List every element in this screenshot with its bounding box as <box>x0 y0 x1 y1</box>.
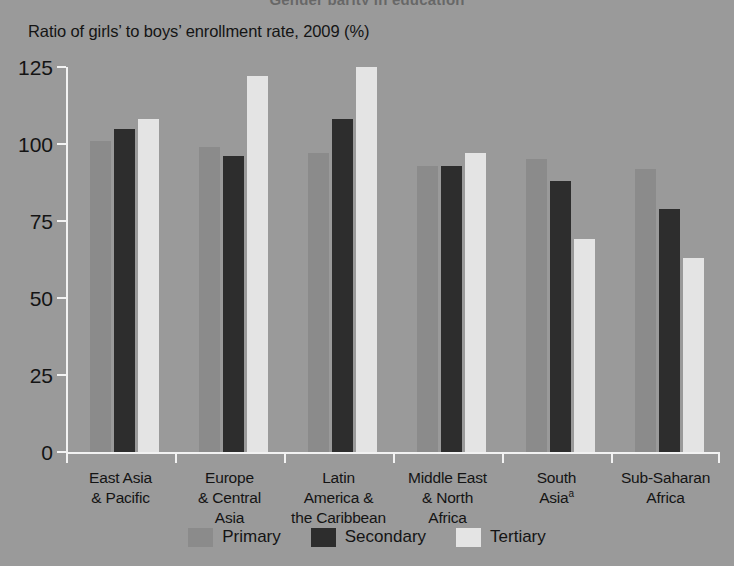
chart-legend: PrimarySecondaryTertiary <box>0 527 734 547</box>
bar-primary-4 <box>526 159 547 452</box>
bar-tertiary-0 <box>138 119 159 452</box>
category-label-line: Asiaa <box>502 488 611 508</box>
x-axis-separator <box>718 452 720 463</box>
category-label-0: East Asia& Pacific <box>66 468 175 508</box>
category-label-line: South <box>502 468 611 488</box>
category-label-1: Europe& CentralAsia <box>175 468 284 527</box>
category-label-line: the Caribbean <box>284 508 393 528</box>
bar-tertiary-5 <box>683 258 704 452</box>
bar-secondary-4 <box>550 181 571 452</box>
y-axis-line <box>66 67 68 452</box>
y-tick-mark <box>57 143 66 145</box>
chart-figure: Gender parity in education Ratio of girl… <box>0 0 734 566</box>
category-label-line: & North <box>393 488 502 508</box>
legend-swatch-primary-icon <box>188 528 213 547</box>
bar-secondary-5 <box>659 209 680 452</box>
legend-swatch-tertiary-icon <box>456 528 481 547</box>
category-label-line: Europe <box>175 468 284 488</box>
category-label-line: East Asia <box>66 468 175 488</box>
category-label-line: Africa <box>393 508 502 528</box>
legend-item-primary[interactable]: Primary <box>188 527 281 547</box>
bar-secondary-0 <box>114 129 135 452</box>
bar-primary-3 <box>417 166 438 452</box>
y-tick-mark <box>57 66 66 68</box>
x-axis-separator <box>611 452 613 463</box>
legend-label: Tertiary <box>490 527 546 547</box>
bar-secondary-3 <box>441 166 462 452</box>
category-label-2: LatinAmerica &the Caribbean <box>284 468 393 527</box>
plot-area: 0255075100125 East Asia& PacificEurope& … <box>66 67 720 452</box>
category-label-line: Sub-Saharan <box>611 468 720 488</box>
legend-label: Secondary <box>345 527 426 547</box>
y-tick-label: 0 <box>41 442 53 463</box>
chart-subtitle: Ratio of girls’ to boys’ enrollment rate… <box>28 22 369 41</box>
category-label-4: SouthAsiaa <box>502 468 611 508</box>
legend-item-tertiary[interactable]: Tertiary <box>456 527 546 547</box>
y-tick-label: 50 <box>30 288 53 309</box>
bar-primary-1 <box>199 147 220 452</box>
category-label-line: & Pacific <box>66 488 175 508</box>
x-axis-separator <box>175 452 177 463</box>
y-tick-label: 75 <box>30 211 53 232</box>
bar-primary-5 <box>635 169 656 452</box>
clipped-chart-title: Gender parity in education <box>0 0 734 5</box>
y-tick-label: 125 <box>18 57 53 78</box>
legend-item-secondary[interactable]: Secondary <box>311 527 426 547</box>
category-label-line: Latin <box>284 468 393 488</box>
bar-tertiary-4 <box>574 239 595 452</box>
bar-primary-2 <box>308 153 329 452</box>
category-label-line: Middle East <box>393 468 502 488</box>
category-label-line: & Central <box>175 488 284 508</box>
category-label-5: Sub-SaharanAfrica <box>611 468 720 508</box>
bar-secondary-2 <box>332 119 353 452</box>
bar-secondary-1 <box>223 156 244 452</box>
legend-swatch-secondary-icon <box>311 528 336 547</box>
legend-label: Primary <box>222 527 281 547</box>
bar-primary-0 <box>90 141 111 452</box>
y-tick-mark <box>57 451 66 453</box>
bar-tertiary-1 <box>247 76 268 452</box>
category-label-3: Middle East& NorthAfrica <box>393 468 502 527</box>
category-footnote-marker: a <box>568 488 573 499</box>
y-tick-mark <box>57 297 66 299</box>
bar-tertiary-3 <box>465 153 486 452</box>
category-label-line: America & <box>284 488 393 508</box>
x-axis-separator <box>393 452 395 463</box>
x-axis-separator <box>66 452 68 463</box>
category-label-line: Asia <box>175 508 284 528</box>
y-tick-label: 100 <box>18 134 53 155</box>
y-tick-mark <box>57 374 66 376</box>
y-tick-mark <box>57 220 66 222</box>
y-tick-label: 25 <box>30 365 53 386</box>
category-label-line: Africa <box>611 488 720 508</box>
x-axis-separator <box>502 452 504 463</box>
bar-tertiary-2 <box>356 67 377 452</box>
x-axis-separator <box>284 452 286 463</box>
